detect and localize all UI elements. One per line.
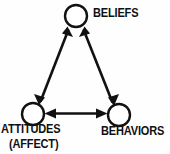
node-behaviors-circle[interactable]: [108, 104, 130, 126]
node-behaviors-label: BEHAVIORS: [101, 125, 164, 137]
edge-beliefs-behaviors-line: [84, 30, 113, 103]
edge-attitudes-behaviors-head-right: [96, 109, 108, 119]
diagram-canvas: BELIEFS ATTITUDES (AFFECT) BEHAVIORS: [0, 0, 170, 154]
edge-attitudes-behaviors: [45, 109, 108, 119]
edge-attitudes-beliefs: [34, 27, 73, 106]
node-beliefs-label: BELIEFS: [93, 7, 138, 19]
edge-attitudes-behaviors-head-left: [45, 109, 57, 119]
node-beliefs-circle[interactable]: [65, 5, 87, 27]
edge-beliefs-behaviors: [79, 27, 119, 107]
node-attitudes-label: ATTITUDES: [1, 123, 60, 135]
edge-attitudes-beliefs-line: [41, 30, 69, 102]
node-attitudes-sublabel: (AFFECT): [9, 138, 58, 150]
